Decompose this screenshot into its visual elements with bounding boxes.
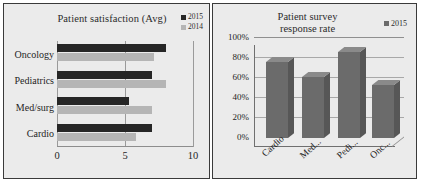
left-chart-category-axis: Oncology Pediatrics Med/surg Cardio [6,41,56,147]
y-tick-100: 100% [228,32,249,42]
patient-survey-response-rate-chart-panel: Patient survey response rate 2015 100% 8… [212,3,417,179]
bar-group-pediatrics [57,68,193,95]
category-label-oncology: Oncology [6,41,56,68]
floor-right-edge [392,137,404,147]
column-pedi-side [360,47,366,138]
bar-cardio-2015 [57,124,152,132]
legend-swatch-2014-icon [181,25,186,30]
dual-chart-figure: Patient satisfaction (Avg) 2015 2014 Onc… [0,0,421,181]
column-onc-side [394,81,400,138]
column-pedi-front [338,52,360,138]
legend-label-2015: 2015 [391,19,407,28]
right-chart-y-tick-labels: 100% 80% 60% 40% 20% 0% [215,31,251,143]
y-tick-0: 0% [237,132,249,142]
bar-medsurg-2014 [57,106,152,114]
legend-label-2014: 2014 [188,22,203,32]
gridline-10 [193,41,194,147]
right-chart-y-axis [254,45,255,147]
x-tick-5: 5 [122,150,127,161]
legend-swatch-2015-icon [181,15,186,20]
bar-group-oncology [57,41,193,68]
column-cardio-front [266,62,288,138]
right-chart-legend: 2015 [384,19,407,28]
column-med-front [302,77,324,138]
left-chart-plot-area [57,41,193,147]
bar-group-cardio [57,121,193,148]
column-cardio-side [288,58,294,138]
category-label-cardio: Cardio [6,121,56,148]
bar-oncology-2015 [57,44,166,52]
bar-group-medsurg [57,94,193,121]
patient-satisfaction-chart-panel: Patient satisfaction (Avg) 2015 2014 Onc… [3,3,210,179]
right-chart-title: Patient survey response rate [255,11,360,34]
left-chart-legend: 2015 2014 [181,12,203,32]
gridline-100 [254,37,404,38]
bar-cardio-2014 [57,133,136,141]
x-tick-0: 0 [54,150,59,161]
bar-medsurg-2015 [57,97,129,105]
right-chart-category-labels: Cardio Med... Pedi... Onc... [254,147,404,179]
right-chart-plot-area [254,37,404,147]
legend-item-2014: 2014 [181,22,203,32]
category-label-pediatrics: Pediatrics [6,68,56,95]
column-onc-front [372,85,394,138]
y-tick-20: 20% [233,112,250,122]
category-label-medsurg: Med/surg [6,94,56,121]
y-tick-80: 80% [233,52,250,62]
bar-pediatrics-2015 [57,71,152,79]
left-chart-title: Patient satisfaction (Avg) [42,13,182,24]
y-tick-60: 60% [233,72,250,82]
legend-label-2015: 2015 [188,12,203,22]
right-chart-title-line2: response rate [255,23,360,35]
legend-swatch-2015-icon [384,21,389,26]
legend-item-2015: 2015 [181,12,203,22]
right-chart-title-line1: Patient survey [255,11,360,23]
column-med-side [324,73,330,138]
left-chart-x-tick-labels: 0 5 10 [57,150,193,164]
y-tick-40: 40% [233,92,250,102]
bar-pediatrics-2014 [57,80,166,88]
bar-oncology-2014 [57,53,154,61]
x-tick-10: 10 [188,150,199,161]
